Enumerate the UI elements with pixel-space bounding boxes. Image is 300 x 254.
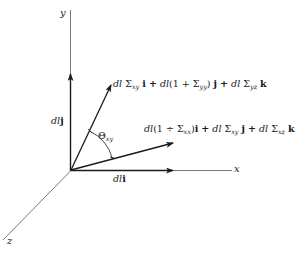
term-dl: dl bbox=[144, 123, 153, 134]
strain-diagram: y x z dlj dli Θxy dl Σxy i + dl(1 + Σyy)… bbox=[0, 0, 300, 254]
unit-i: i bbox=[195, 123, 199, 134]
y-axis-label: y bbox=[60, 8, 66, 18]
z-axis bbox=[3, 171, 71, 241]
sigma-sub: yy bbox=[200, 83, 207, 91]
term-dl: dl bbox=[212, 123, 221, 134]
angle-arc-tick-bottom bbox=[110, 157, 114, 158]
dl-j-dl: dl bbox=[51, 115, 60, 126]
deformed-x-label: dl(1 ÷ Σxx)i + dl Σxy j + dl Σxz k bbox=[144, 124, 295, 136]
plus: + bbox=[248, 123, 256, 134]
deformed-y-vector bbox=[71, 85, 111, 170]
paren-close: ) bbox=[207, 78, 211, 89]
sigma-sub: xx bbox=[184, 128, 191, 136]
sigma: Σ bbox=[271, 123, 278, 134]
paren-open: (1 + bbox=[169, 78, 190, 89]
deformed-y-label: dl Σxy i + dl(1 + Σyy) j + dl Σyz k bbox=[113, 79, 267, 91]
theta-sub: xy bbox=[106, 135, 113, 143]
unit-j: j bbox=[242, 123, 245, 134]
unit-k: k bbox=[260, 78, 267, 89]
sigma: Σ bbox=[243, 78, 250, 89]
dl-j-unit: j bbox=[60, 115, 63, 126]
term-dl: dl bbox=[160, 78, 169, 89]
sigma-sub: xz bbox=[278, 128, 285, 136]
dl-i-dl: dl bbox=[113, 173, 122, 184]
angle-label: Θxy bbox=[98, 131, 113, 143]
sigma: Σ bbox=[125, 78, 132, 89]
plus: + bbox=[220, 78, 228, 89]
sigma-sub: yz bbox=[250, 83, 257, 91]
plus: + bbox=[201, 123, 209, 134]
unit-k: k bbox=[288, 123, 295, 134]
z-axis-label: z bbox=[7, 236, 12, 246]
x-axis-label: x bbox=[234, 164, 240, 174]
term-dl: dl bbox=[259, 123, 268, 134]
sigma: Σ bbox=[177, 123, 184, 134]
unit-j: j bbox=[214, 78, 217, 89]
paren-open: (1 ÷ bbox=[153, 123, 174, 134]
term-dl: dl bbox=[113, 78, 122, 89]
theta-symbol: Θ bbox=[98, 130, 106, 141]
dl-i-unit: i bbox=[122, 173, 126, 184]
sigma-sub: xy bbox=[132, 83, 139, 91]
unit-i: i bbox=[142, 78, 146, 89]
sigma: Σ bbox=[193, 78, 200, 89]
plus: + bbox=[149, 78, 157, 89]
dl-j-label: dlj bbox=[51, 116, 64, 126]
sigma-sub: xy bbox=[231, 128, 238, 136]
dl-i-label: dli bbox=[113, 174, 126, 184]
term-dl: dl bbox=[231, 78, 240, 89]
deformed-x-vector bbox=[71, 143, 173, 170]
